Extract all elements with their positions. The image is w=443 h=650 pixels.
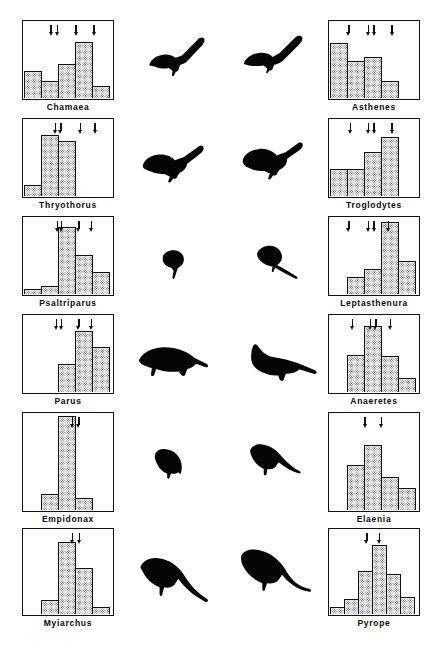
bar xyxy=(330,607,345,614)
arrow-marker-group xyxy=(329,25,419,41)
histogram-panel-troglodytes: Troglodytes xyxy=(328,118,420,212)
bar xyxy=(330,169,348,196)
bar xyxy=(75,42,93,98)
bar xyxy=(364,269,382,294)
panel-frame xyxy=(328,216,420,296)
wrentit-silhouette xyxy=(143,28,221,86)
bar xyxy=(364,326,382,392)
bar xyxy=(330,43,348,98)
bar xyxy=(92,272,110,294)
bar xyxy=(92,607,110,614)
tit-spinetail-silhouette xyxy=(248,232,316,286)
arrow-marker-group xyxy=(23,319,113,335)
bar xyxy=(347,355,365,392)
myiarchus-flycatcher-silhouette xyxy=(137,538,231,614)
bar xyxy=(381,356,399,392)
bar xyxy=(92,347,110,392)
histogram-panel-elaenia: Elaenia xyxy=(328,412,420,526)
panel-caption-psaltriparus: Psaltriparus xyxy=(22,298,114,308)
carolina-wren-silhouette xyxy=(138,134,220,190)
bar xyxy=(41,600,59,614)
arrow-marker-group xyxy=(329,533,419,549)
bar xyxy=(58,141,76,196)
panel-frame xyxy=(22,216,114,296)
histogram-panel-chamaea: Chamaea xyxy=(22,20,114,114)
panel-caption-thryothorus: Thryothorus xyxy=(22,200,114,210)
bar xyxy=(386,574,401,614)
bar xyxy=(347,277,365,294)
histogram-panel-pyrope: Pyrope xyxy=(328,528,420,630)
arrow-marker-group xyxy=(23,221,113,237)
titmouse-silhouette xyxy=(133,336,221,388)
bar xyxy=(24,185,42,196)
panel-frame xyxy=(22,412,114,512)
bar xyxy=(372,545,387,614)
bar xyxy=(381,81,399,98)
histogram-panel-psaltriparus: Psaltriparus xyxy=(22,216,114,310)
bar xyxy=(92,86,110,98)
panel-caption-chamaea: Chamaea xyxy=(22,102,114,112)
panel-caption-elaenia: Elaenia xyxy=(328,514,420,524)
panel-frame xyxy=(328,118,420,198)
empidonax-flycatcher-silhouette xyxy=(150,432,216,494)
bar xyxy=(347,169,365,196)
histogram-panel-parus: Parus xyxy=(22,314,114,408)
arrow-marker-group xyxy=(329,221,419,237)
bar xyxy=(75,331,93,392)
panel-frame xyxy=(22,528,114,616)
bar xyxy=(364,445,382,510)
elaenia-silhouette xyxy=(246,430,320,490)
bar xyxy=(347,465,365,510)
panel-caption-anaeretes: Anaeretes xyxy=(328,396,420,406)
bar xyxy=(75,568,93,614)
panel-caption-empidonax: Empidonax xyxy=(22,514,114,524)
panel-caption-asthenes: Asthenes xyxy=(328,102,420,112)
panel-caption-pyrope: Pyrope xyxy=(328,618,420,628)
bar xyxy=(400,597,415,614)
bar xyxy=(58,64,76,98)
panel-caption-leptasthenura: Leptasthenura xyxy=(328,298,420,308)
arrow-marker-group xyxy=(23,417,113,433)
house-wren-silhouette xyxy=(238,130,320,186)
arrow-marker-group xyxy=(329,417,419,433)
arrow-marker-group xyxy=(23,25,113,41)
arrow-marker-group xyxy=(329,123,419,139)
bar xyxy=(75,255,93,294)
figure-plate: ChamaeaAsthenesThryothorusTroglodytesPsa… xyxy=(0,0,443,650)
bar xyxy=(24,289,42,294)
panel-frame xyxy=(328,314,420,394)
bar xyxy=(364,152,382,196)
panel-caption-parus: Parus xyxy=(22,396,114,406)
bar xyxy=(398,488,416,510)
bar xyxy=(58,542,76,614)
panel-frame xyxy=(22,118,114,198)
bar xyxy=(358,571,373,614)
pyrope-flycatcher-silhouette xyxy=(236,532,330,608)
arrow-marker-group xyxy=(329,319,419,335)
panel-caption-myiarchus: Myiarchus xyxy=(22,618,114,628)
panel-frame xyxy=(22,314,114,394)
histogram-panel-myiarchus: Myiarchus xyxy=(22,528,114,630)
panel-frame xyxy=(328,20,420,100)
histogram-panel-asthenes: Asthenes xyxy=(328,20,420,114)
bar xyxy=(41,81,59,98)
bar xyxy=(398,378,416,392)
arrow-marker-group xyxy=(23,533,113,549)
bar xyxy=(41,286,59,294)
bar xyxy=(381,477,399,510)
bar xyxy=(24,71,42,98)
histogram-panel-empidonax: Empidonax xyxy=(22,412,114,526)
histogram-panel-leptasthenura: Leptasthenura xyxy=(328,216,420,310)
canastero-silhouette xyxy=(236,24,314,82)
bar xyxy=(41,494,59,510)
arrow-marker-group xyxy=(23,123,113,139)
histogram-panel-anaeretes: Anaeretes xyxy=(328,314,420,408)
panel-caption-troglodytes: Troglodytes xyxy=(328,200,420,210)
bar xyxy=(347,61,365,98)
bar xyxy=(398,261,416,294)
panel-frame xyxy=(22,20,114,100)
panel-frame xyxy=(328,412,420,512)
bar xyxy=(381,137,399,196)
bushtit-silhouette xyxy=(152,236,212,288)
panel-frame xyxy=(328,528,420,616)
